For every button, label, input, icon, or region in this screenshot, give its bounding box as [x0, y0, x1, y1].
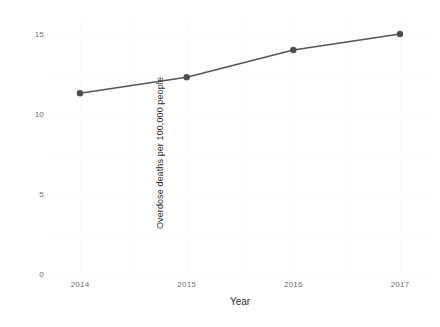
chart-screenshot: 051015 2014201520162017 Year Overdose de…: [0, 0, 440, 327]
series-point: [77, 90, 83, 96]
x-axis-tick-label: 2014: [71, 280, 90, 289]
gridline-y-major: [48, 274, 432, 275]
y-axis-tick-label: 0: [39, 270, 44, 279]
y-axis-tick-label: 15: [35, 30, 44, 39]
x-axis-tick-label: 2015: [177, 280, 196, 289]
y-axis-title-text: Overdose deaths per 100,000 people: [155, 77, 165, 229]
plot-panel: [48, 18, 432, 274]
y-axis-tick-labels: 051015: [30, 18, 44, 274]
x-axis-tick-label: 2017: [391, 280, 410, 289]
series-point: [397, 31, 403, 37]
y-axis-title-rotator: Overdose deaths per 100,000 people: [153, 25, 167, 281]
series-point: [290, 47, 296, 53]
y-axis-tick-label: 10: [35, 110, 44, 119]
y-axis-tick-label: 5: [39, 190, 44, 199]
line-series-layer: [48, 18, 432, 274]
x-axis-tick-label: 2016: [284, 280, 303, 289]
x-axis-tick-labels: 2014201520162017: [48, 280, 432, 292]
x-axis-title-text: Year: [230, 296, 250, 307]
x-axis-title: Year: [48, 296, 432, 307]
series-line-overdose-deaths: [80, 34, 400, 93]
series-point: [183, 74, 189, 80]
